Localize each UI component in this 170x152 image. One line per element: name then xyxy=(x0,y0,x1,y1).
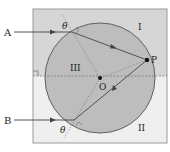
label-region-iii: III xyxy=(70,63,81,73)
label-b: B xyxy=(4,115,11,126)
point-o xyxy=(98,76,102,80)
label-theta-bottom: θ xyxy=(60,125,66,135)
label-region-ii: II xyxy=(138,123,146,133)
label-region-i: I xyxy=(138,22,142,32)
label-a: A xyxy=(3,27,12,38)
label-theta-top: θ xyxy=(62,21,68,31)
point-p xyxy=(145,58,149,62)
refraction-diagram: A B I II III O P θ θ xyxy=(0,0,170,152)
label-o: O xyxy=(99,82,106,92)
label-p: P xyxy=(151,55,157,65)
